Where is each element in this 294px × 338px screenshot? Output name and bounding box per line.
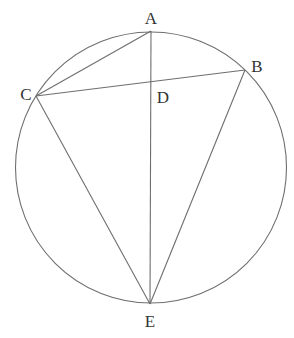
point-label-B: B bbox=[251, 57, 262, 76]
segment-CE bbox=[36, 96, 150, 304]
segment-CB bbox=[36, 70, 245, 96]
point-label-A: A bbox=[145, 9, 158, 28]
point-label-E: E bbox=[145, 312, 155, 331]
segment-AE bbox=[150, 31, 151, 304]
geometry-diagram: A B C D E bbox=[0, 0, 294, 338]
point-label-D: D bbox=[157, 88, 169, 107]
point-label-C: C bbox=[20, 85, 31, 104]
segment-AC bbox=[36, 31, 151, 96]
